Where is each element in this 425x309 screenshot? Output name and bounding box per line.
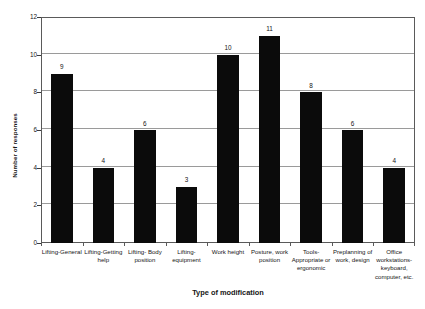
y-axis-tick-label: 6 — [7, 127, 37, 133]
x-axis-category-label: Office workstations-keyboard, computer, … — [373, 248, 415, 281]
gridline — [42, 53, 414, 54]
x-axis-category-label: Tools-Appropriate or ergonomic — [290, 248, 332, 273]
y-axis-tick-label: 2 — [7, 202, 37, 208]
x-axis-tick-mark — [290, 243, 291, 246]
gridline — [42, 128, 414, 129]
x-axis-category-label: Lifting- Body position — [124, 248, 166, 264]
x-axis-tick-mark — [373, 243, 374, 246]
gridline — [42, 166, 414, 167]
x-axis-tick-mark — [207, 243, 208, 246]
x-axis-category-label: Lifting-General — [41, 248, 83, 256]
y-axis-tick-label: 12 — [7, 14, 37, 20]
x-axis-tick-mark — [414, 243, 415, 246]
x-axis-category-label: Preplanning of work, design — [332, 248, 374, 264]
x-axis-tick-marks — [41, 243, 415, 247]
y-axis-tick-label: 4 — [7, 164, 37, 170]
x-axis-tick-mark — [249, 243, 250, 246]
y-axis-tick-labels: 024681012 — [4, 17, 37, 243]
x-axis-category-label: Lifting-Getting help — [83, 248, 125, 264]
y-axis-tick-label: 0 — [7, 240, 37, 246]
x-axis-tick-mark — [166, 243, 167, 246]
x-axis-category-label: Posture, work position — [249, 248, 291, 264]
plot-area — [41, 17, 415, 243]
x-axis-tick-mark — [41, 243, 42, 246]
gridline — [42, 90, 414, 91]
x-axis-tick-mark — [332, 243, 333, 246]
y-axis-tick-label: 10 — [7, 51, 37, 57]
gridline — [42, 203, 414, 204]
x-axis-title: Type of modification — [41, 288, 415, 297]
x-axis-category-label: Work height — [207, 248, 249, 256]
x-axis-category-label: Lifting-equipment — [166, 248, 208, 264]
bar-chart-figure: Number of responses 024681012 9463101186… — [0, 0, 425, 309]
y-axis-tick-label: 8 — [7, 89, 37, 95]
x-axis-tick-mark — [83, 243, 84, 246]
x-axis-tick-mark — [124, 243, 125, 246]
